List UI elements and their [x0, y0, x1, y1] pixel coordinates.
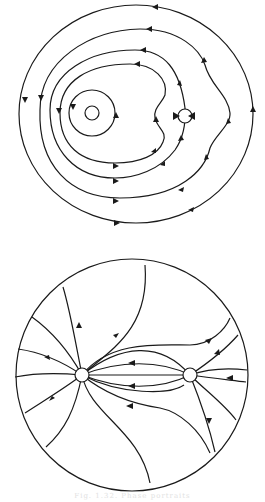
center-point [85, 106, 99, 120]
figure-caption: Fig. 1.32. Phase portraits [0, 492, 265, 500]
orbit-1 [19, 5, 253, 223]
left-node [75, 368, 89, 382]
bottom-phase-portrait [15, 259, 248, 491]
top-phase-portrait [19, 5, 253, 223]
orbit-inner [69, 90, 115, 136]
orbit-3 [50, 50, 185, 178]
figure [0, 0, 265, 502]
orbit-4 [60, 64, 165, 163]
right-node [183, 368, 197, 382]
top-arrows [22, 4, 256, 226]
